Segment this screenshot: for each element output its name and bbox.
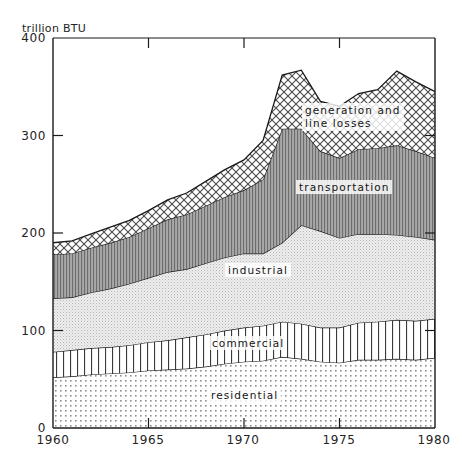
- stacked-area-chart: trillion BTU 400 300 200 100 0 1960 1965…: [0, 0, 462, 459]
- series-label-generation-line1: generation and: [305, 104, 401, 116]
- series-label-generation-line2: line losses: [305, 117, 372, 129]
- series-label-residential: residential: [208, 388, 281, 402]
- series-label-commercial: commercial: [209, 336, 287, 350]
- series-label-transportation: transportation: [296, 180, 392, 194]
- faint-footer-text: [286, 447, 290, 457]
- series-label-industrial: industrial: [225, 263, 291, 277]
- series-label-generation: generation and line losses: [302, 103, 404, 131]
